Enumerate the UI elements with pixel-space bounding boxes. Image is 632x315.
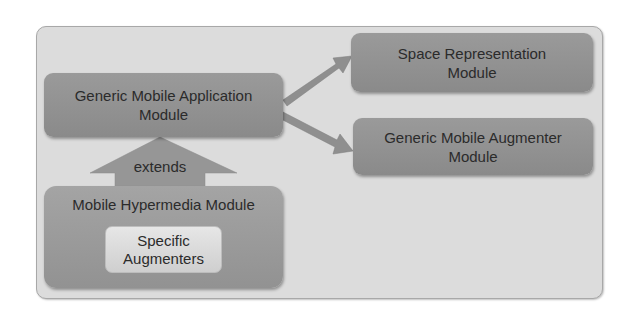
generic-mobile-augmenter-module: Generic Mobile Augmenter Module: [353, 118, 593, 175]
module-label-line2: Module: [384, 147, 562, 166]
extends-label: extends: [115, 158, 205, 175]
module-label-line2: Module: [398, 63, 546, 82]
specific-augmenters-box: Specific Augmenters: [105, 226, 222, 273]
mobile-hypermedia-module: Mobile Hypermedia Module Specific Augmen…: [44, 186, 283, 288]
module-label-line1: Generic Mobile Augmenter: [384, 128, 562, 147]
module-label-line2: Module: [75, 105, 253, 124]
mobile-hypermedia-label: Mobile Hypermedia Module: [44, 196, 283, 213]
specific-augmenters-line1: Specific: [137, 232, 190, 250]
space-representation-module: Space Representation Module: [351, 33, 593, 92]
module-label-line1: Generic Mobile Application: [75, 86, 253, 105]
arrow-to-augmenter: [281, 112, 353, 154]
module-label-line1: Space Representation: [398, 44, 546, 63]
specific-augmenters-line2: Augmenters: [123, 250, 204, 268]
arrow-to-space-representation: [283, 56, 352, 106]
generic-mobile-application-module: Generic Mobile Application Module: [44, 73, 283, 137]
